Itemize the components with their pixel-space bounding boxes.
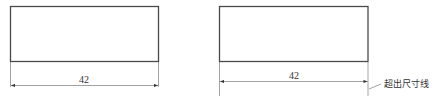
dimension-diagram: 42 42 超出尺寸线 bbox=[0, 0, 434, 102]
figure-right: 42 超出尺寸线 bbox=[220, 7, 430, 97]
part-outline-right bbox=[220, 7, 369, 62]
annotation-label: 超出尺寸线 bbox=[384, 78, 429, 89]
leader-line bbox=[369, 84, 381, 89]
figure-left: 42 bbox=[11, 7, 159, 88]
dimension-value-left: 42 bbox=[79, 74, 89, 85]
part-outline-left bbox=[11, 7, 159, 62]
dimension-value-right: 42 bbox=[289, 70, 299, 81]
